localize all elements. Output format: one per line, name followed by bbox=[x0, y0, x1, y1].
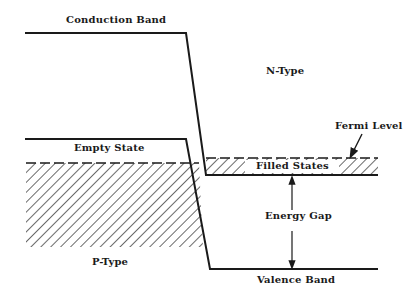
label-fermi-level: Fermi Level bbox=[335, 120, 403, 131]
label-filled-states: Filled States bbox=[256, 160, 329, 171]
conduction-band-line bbox=[25, 33, 378, 175]
band-diagram bbox=[0, 0, 414, 302]
label-valence-band: Valence Band bbox=[257, 274, 335, 285]
p-side-filled-region bbox=[26, 163, 203, 247]
label-conduction-band: Conduction Band bbox=[66, 14, 166, 25]
label-n-type: N-Type bbox=[266, 65, 304, 76]
label-p-type: P-Type bbox=[92, 256, 128, 267]
label-energy-gap: Energy Gap bbox=[265, 210, 332, 221]
label-empty-state: Empty State bbox=[74, 142, 145, 153]
fermi-level-arrow bbox=[352, 134, 362, 154]
